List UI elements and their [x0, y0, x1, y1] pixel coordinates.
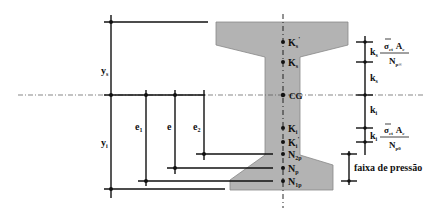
ys-yi-dimension — [104, 15, 225, 198]
label-cg: CG — [289, 91, 303, 101]
lower-fraction-numerator: σctAc — [384, 125, 405, 136]
label-e: e — [167, 121, 172, 132]
label-yi: yi — [101, 137, 108, 149]
prestressed-section-diagram: Ks' Ks CG Ki Ki' N2p Np N1p ys yi e1 e e… — [0, 0, 445, 218]
upper-fraction-numerator: σctAc — [384, 41, 405, 52]
label-e1: e1 — [135, 121, 142, 133]
lower-fraction-denominator: Np0 — [389, 140, 401, 151]
label-ys: ys — [101, 65, 109, 77]
upper-fraction-denominator: Np∞ — [389, 56, 402, 67]
pressure-band-label: faixa de pressão — [354, 162, 422, 173]
label-upper-k: ks — [370, 46, 379, 58]
label-ki-dim: ki — [370, 104, 378, 116]
label-e2: e2 — [193, 121, 200, 133]
label-ks-dim: ks — [370, 72, 379, 84]
label-lower-k: ki — [370, 130, 378, 142]
i-beam-section — [216, 22, 348, 190]
